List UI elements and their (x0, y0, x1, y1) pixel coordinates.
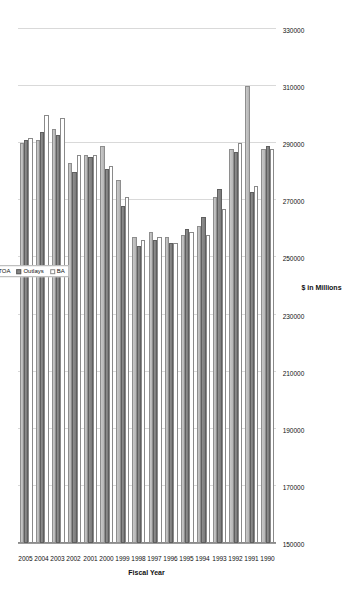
legend-item-toa: TOA (0, 268, 10, 274)
bar-ba-1999 (125, 197, 129, 543)
bar-ba-1995 (189, 232, 193, 543)
legend-label: TOA (0, 268, 10, 274)
bar-ba-2003 (60, 118, 64, 543)
bar-group (163, 30, 179, 543)
bar-group (50, 30, 66, 543)
bar-ba-1993 (222, 209, 226, 543)
value-tick-label: 310000 (280, 84, 308, 91)
category-tick-label-2005: 2005 (16, 555, 36, 562)
bar-ba-2000 (109, 166, 113, 543)
bar-group (195, 30, 211, 543)
value-tick-label: 190000 (280, 426, 308, 433)
value-tick-label: 330000 (280, 27, 308, 34)
chart-legend: TOAOutlaysBA (0, 265, 69, 277)
bar-group (34, 30, 50, 543)
gridline (18, 28, 276, 29)
bar-ba-2001 (93, 155, 97, 543)
bar-ba-1990 (270, 149, 274, 543)
bar-group (99, 30, 115, 543)
bar-ba-2002 (77, 155, 81, 543)
legend-swatch-ba-icon (50, 269, 55, 274)
bar-ba-2004 (44, 115, 48, 543)
bar-group (83, 30, 99, 543)
bar-group (228, 30, 244, 543)
bar-ba-1994 (206, 235, 210, 543)
legend-item-ba: BA (50, 268, 65, 274)
bar-group (147, 30, 163, 543)
legend-label: BA (57, 268, 65, 274)
bar-ba-1991 (254, 186, 258, 543)
bar-group (115, 30, 131, 543)
bar-group (131, 30, 147, 543)
value-tick-label: 230000 (280, 312, 308, 319)
value-tick-label: 250000 (280, 255, 308, 262)
bar-ba-1998 (141, 240, 145, 543)
bar-ba-1997 (157, 237, 161, 543)
legend-item-outlays: Outlays (16, 268, 43, 274)
legend-swatch-outlays-icon (16, 269, 21, 274)
bar-group (179, 30, 195, 543)
value-axis-title: $ in Millions (292, 284, 346, 291)
value-tick-label: 210000 (280, 369, 308, 376)
value-tick-label: 170000 (280, 483, 308, 490)
bar-ba-1992 (238, 143, 242, 543)
plot-area (18, 30, 276, 544)
value-tick-label: 270000 (280, 198, 308, 205)
value-tick-label: 290000 (280, 141, 308, 148)
bar-ba-2005 (28, 138, 32, 543)
bar-group (18, 30, 34, 543)
bar-group (260, 30, 276, 543)
bar-ba-1996 (173, 243, 177, 543)
legend-label: Outlays (23, 268, 43, 274)
bar-group (66, 30, 82, 543)
bar-group (212, 30, 228, 543)
category-axis-title: Fiscal Year (127, 569, 167, 576)
value-tick-label: 150000 (280, 541, 308, 548)
bar-group (244, 30, 260, 543)
